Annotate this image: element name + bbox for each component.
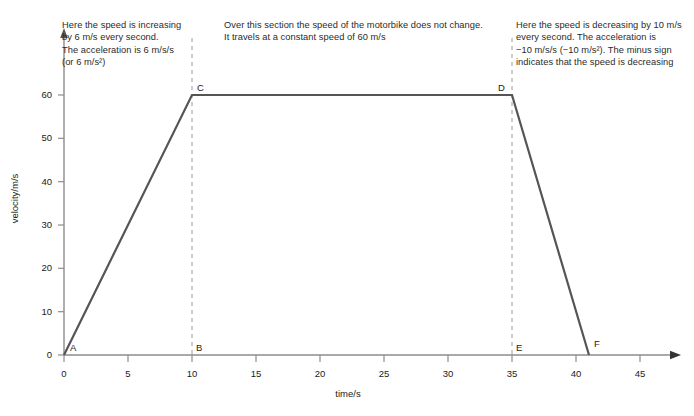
point-label-A: A: [70, 342, 76, 353]
y-tick-label-0: 0: [30, 349, 52, 360]
x-axis-title: time/s: [313, 388, 383, 399]
x-tick-label-35: 35: [500, 368, 524, 379]
point-label-D: D: [498, 82, 505, 93]
x-tick-label-10: 10: [180, 368, 204, 379]
y-tick-label-50: 50: [30, 132, 52, 143]
x-tick-label-20: 20: [308, 368, 332, 379]
x-tick-label-5: 5: [116, 368, 140, 379]
annotation-constant-speed: Over this section the speed of the motor…: [224, 19, 514, 44]
y-tick-label-30: 30: [30, 219, 52, 230]
y-tick-label-40: 40: [30, 176, 52, 187]
x-axis-arrow-icon: [670, 351, 681, 359]
y-tick-label-10: 10: [30, 306, 52, 317]
annotation-acceleration-positive: Here the speed is increasing by 6 m/s ev…: [62, 19, 212, 69]
annotation-acceleration-negative: Here the speed is decreasing by 10 m/s e…: [516, 19, 688, 69]
y-tick-label-20: 20: [30, 262, 52, 273]
x-tick-label-40: 40: [564, 368, 588, 379]
y-tick-label-60: 60: [30, 89, 52, 100]
x-tick-label-30: 30: [436, 368, 460, 379]
x-tick-label-0: 0: [52, 368, 76, 379]
point-label-E: E: [516, 342, 522, 353]
point-label-C: C: [197, 82, 204, 93]
point-label-F: F: [594, 338, 600, 349]
velocity-time-graph-figure: Here the speed is increasing by 6 m/s ev…: [0, 0, 694, 416]
x-tick-label-15: 15: [244, 368, 268, 379]
y-axis-title: velocity/m/s: [9, 169, 20, 229]
x-axis-ticks: [64, 355, 640, 362]
x-tick-label-45: 45: [628, 368, 652, 379]
x-tick-label-25: 25: [372, 368, 396, 379]
velocity-data-line: [64, 95, 589, 355]
y-axis-ticks: [58, 95, 64, 355]
point-label-B: B: [196, 342, 202, 353]
